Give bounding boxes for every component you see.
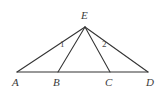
point-label-C: C	[105, 77, 112, 88]
geometry-figure: E A B C D 1 2	[0, 0, 164, 92]
angle-label-1: 1	[60, 40, 65, 49]
point-label-D: D	[146, 77, 154, 88]
segment-EA	[17, 27, 85, 72]
segment-EC	[85, 27, 110, 72]
point-label-E: E	[81, 10, 88, 21]
segment-ED	[85, 27, 148, 72]
angle-label-2: 2	[102, 40, 107, 49]
point-label-A: A	[12, 77, 19, 88]
point-label-B: B	[53, 77, 60, 88]
segment-EB	[58, 27, 85, 72]
